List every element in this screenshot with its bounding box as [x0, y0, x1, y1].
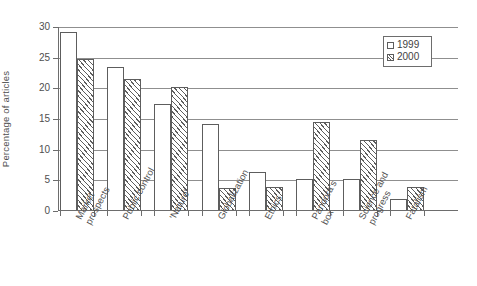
y-axis-title: Percentage of articles: [0, 27, 14, 211]
y-tick-label: 10: [39, 145, 50, 155]
x-tick-mark: [283, 211, 284, 216]
bar: [60, 32, 77, 211]
y-tick-label: 15: [39, 114, 50, 124]
x-tick-mark: [390, 211, 391, 216]
legend: 19992000: [383, 36, 432, 67]
legend-label: 2000: [397, 52, 419, 62]
bar-chart: Percentage of articles 051015202530 Mark…: [0, 0, 477, 286]
y-tick-label: 0: [44, 206, 50, 216]
x-axis-line: [58, 210, 458, 211]
legend-label: 1999: [397, 40, 419, 50]
x-tick-mark: [188, 211, 189, 216]
y-tick-label: 30: [39, 22, 50, 32]
x-tick-mark: [236, 211, 237, 216]
y-tick-label: 5: [44, 175, 50, 185]
legend-item: 2000: [387, 51, 428, 63]
legend-swatch: [387, 42, 394, 49]
x-tick-mark: [249, 211, 250, 216]
x-tick-mark: [107, 211, 108, 216]
bar: [202, 124, 219, 211]
x-tick-mark: [154, 211, 155, 216]
gridline: [58, 27, 458, 28]
bar: [296, 179, 313, 211]
x-tick-mark: [343, 211, 344, 216]
x-tick-mark: [296, 211, 297, 216]
x-tick-mark: [60, 211, 61, 216]
legend-item: 1999: [387, 39, 428, 51]
y-tick-mark: [53, 211, 58, 212]
y-tick-label: 25: [39, 53, 50, 63]
x-tick-mark: [141, 211, 142, 216]
bar: [343, 179, 360, 212]
bar: [154, 104, 171, 211]
y-tick-label: 20: [39, 83, 50, 93]
bar: [249, 172, 266, 211]
x-tick-mark: [424, 211, 425, 216]
x-tick-mark: [202, 211, 203, 216]
y-axis-line: [58, 27, 59, 211]
y-tick: 0: [58, 211, 59, 212]
legend-swatch: [387, 54, 394, 61]
